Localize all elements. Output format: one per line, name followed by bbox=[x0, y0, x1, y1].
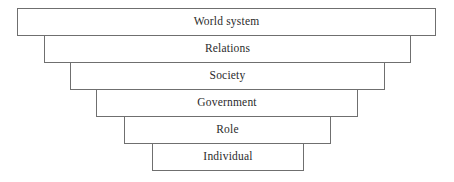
layer-box-individual: Individual bbox=[152, 143, 304, 171]
layer-label-individual: Individual bbox=[203, 151, 252, 163]
layer-label-world-system: World system bbox=[194, 16, 260, 28]
layer-box-world-system: World system bbox=[17, 8, 436, 36]
layered-levels-diagram: World system Relations Society Governmen… bbox=[0, 0, 454, 182]
layer-label-role: Role bbox=[216, 124, 239, 136]
layer-box-relations: Relations bbox=[44, 35, 411, 63]
layer-label-society: Society bbox=[210, 70, 246, 82]
layer-box-government: Government bbox=[96, 89, 358, 117]
layer-label-relations: Relations bbox=[205, 43, 250, 55]
layer-box-society: Society bbox=[70, 62, 385, 90]
layer-label-government: Government bbox=[197, 97, 256, 109]
layer-box-role: Role bbox=[124, 116, 331, 144]
